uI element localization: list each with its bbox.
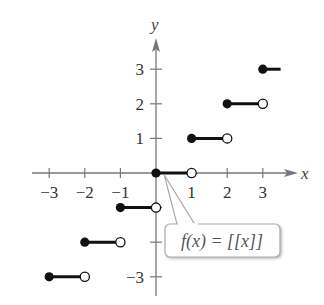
closed-dot-icon (258, 65, 267, 74)
step-function-chart: xy −3−2−1123321−3 f(x) = [[x]] (0, 0, 324, 305)
open-dot-icon (223, 134, 232, 143)
step-segment (80, 238, 125, 247)
closed-dot-icon (223, 99, 232, 108)
x-tick-label: 1 (187, 183, 196, 202)
x-tick-label: −1 (111, 183, 129, 202)
y-tick-label: 1 (136, 129, 145, 148)
y-axis-label: y (149, 15, 159, 34)
x-tick-label: 3 (259, 183, 268, 202)
open-dot-icon (80, 272, 89, 281)
open-dot-icon (151, 203, 160, 212)
step-segment (151, 168, 196, 177)
callout-join (178, 223, 198, 226)
closed-dot-icon (45, 272, 54, 281)
y-tick-label: −3 (126, 268, 144, 287)
open-dot-icon (258, 99, 267, 108)
closed-dot-icon (80, 238, 89, 247)
y-tick-label: 2 (136, 95, 145, 114)
x-axis-label: x (300, 164, 309, 183)
x-tick-label: −2 (76, 183, 94, 202)
x-tick-label: 2 (223, 183, 232, 202)
closed-dot-icon (151, 168, 160, 177)
open-dot-icon (116, 238, 125, 247)
step-segment (45, 272, 90, 281)
function-label: f(x) = [[x]] (181, 231, 263, 252)
step-segment (223, 99, 268, 108)
y-tick-label: 3 (136, 60, 145, 79)
step-segment (258, 65, 280, 74)
step-segment (187, 134, 232, 143)
closed-dot-icon (116, 203, 125, 212)
x-tick-label: −3 (40, 183, 58, 202)
closed-dot-icon (187, 134, 196, 143)
step-segment (116, 203, 161, 212)
open-dot-icon (187, 168, 196, 177)
